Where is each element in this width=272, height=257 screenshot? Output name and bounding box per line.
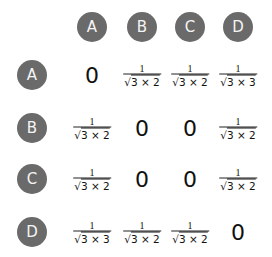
zero-value: 0 [85,63,99,88]
fraction-denominator: √3 × 2 [219,178,257,192]
fraction-numerator: 1 [187,63,192,74]
matrix-cell-d-c: 1√3 × 2 [171,220,209,245]
matrix-cell-d-a: 1√3 × 3 [73,220,111,245]
radicand: 3 × 3 [81,233,110,245]
fraction-numerator: 1 [235,63,240,74]
zero-value: 0 [183,167,197,192]
matrix-cell-d-b: 1√3 × 2 [123,220,161,245]
zero-value: 0 [231,220,245,245]
matrix-cell-d-d: 0 [231,220,245,245]
radicand: 3 × 2 [179,233,208,245]
fraction-denominator: √3 × 2 [123,231,161,245]
zero-value: 0 [135,167,149,192]
matrix-cell-c-d: 1√3 × 2 [219,167,257,192]
zero-value: 0 [183,116,197,141]
square-root-icon: √ [74,129,81,141]
fraction-numerator: 1 [89,167,94,178]
fraction-denominator: √3 × 2 [171,74,209,88]
zero-value: 0 [135,116,149,141]
fraction-denominator: √3 × 2 [73,127,111,141]
matrix-cell-a-a: 0 [85,63,99,88]
square-root-icon: √ [220,129,227,141]
row-header-a: A [17,60,47,90]
square-root-icon: √ [124,233,131,245]
fraction-numerator: 1 [139,63,144,74]
matrix-cell-b-c: 0 [183,116,197,141]
radicand: 3 × 2 [81,180,110,192]
radicand: 3 × 2 [81,129,110,141]
fraction-denominator: √3 × 2 [219,127,257,141]
square-root-icon: √ [74,180,81,192]
fraction-numerator: 1 [89,220,94,231]
matrix-cell-a-b: 1√3 × 2 [123,63,161,88]
radicand: 3 × 3 [227,76,256,88]
fraction-numerator: 1 [235,116,240,127]
fraction-numerator: 1 [139,220,144,231]
matrix-cell-b-d: 1√3 × 2 [219,116,257,141]
matrix-cell-b-a: 1√3 × 2 [73,116,111,141]
square-root-icon: √ [74,233,81,245]
radicand: 3 × 2 [227,180,256,192]
column-header-b: B [127,12,157,42]
square-root-icon: √ [172,76,179,88]
radicand: 3 × 2 [179,76,208,88]
matrix-cell-c-c: 0 [183,167,197,192]
square-root-icon: √ [220,180,227,192]
row-header-b: B [17,113,47,143]
radicand: 3 × 2 [227,129,256,141]
fraction-numerator: 1 [187,220,192,231]
fraction-denominator: √3 × 3 [73,231,111,245]
column-header-c: C [175,12,205,42]
column-header-a: A [77,12,107,42]
matrix-cell-a-c: 1√3 × 2 [171,63,209,88]
fraction-denominator: √3 × 2 [73,178,111,192]
column-header-d: D [223,12,253,42]
radicand: 3 × 2 [131,233,160,245]
fraction-denominator: √3 × 2 [123,74,161,88]
matrix-cell-c-b: 0 [135,167,149,192]
matrix-cell-a-d: 1√3 × 3 [219,63,257,88]
radicand: 3 × 2 [131,76,160,88]
fraction-numerator: 1 [235,167,240,178]
square-root-icon: √ [172,233,179,245]
fraction-denominator: √3 × 2 [171,231,209,245]
matrix-cell-c-a: 1√3 × 2 [73,167,111,192]
square-root-icon: √ [220,76,227,88]
square-root-icon: √ [124,76,131,88]
matrix-cell-b-b: 0 [135,116,149,141]
fraction-numerator: 1 [89,116,94,127]
fraction-denominator: √3 × 3 [219,74,257,88]
row-header-d: D [17,217,47,247]
row-header-c: C [17,164,47,194]
